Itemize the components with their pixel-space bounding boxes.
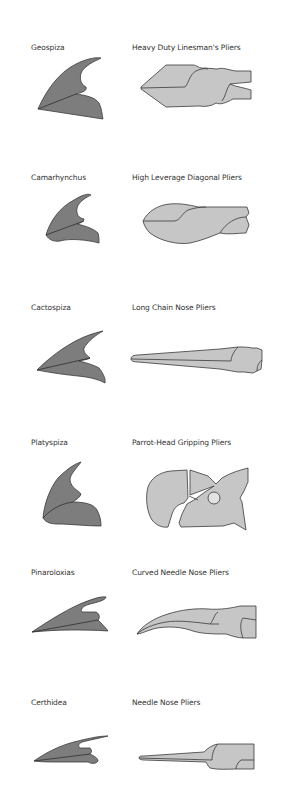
- pair-row-platyspiza: Platyspiza Parrot-Head Gripping Pliers: [0, 438, 300, 563]
- needle-nose-pliers-icon: [0, 698, 300, 807]
- curved-needle-nose-pliers-icon: [0, 568, 300, 693]
- parrot-head-pliers-icon: [0, 438, 300, 563]
- chain-nose-pliers-icon: [0, 303, 300, 428]
- pair-row-geospiza: Geospiza Heavy Duty Linesman's Pliers: [0, 43, 300, 163]
- pair-row-cactospiza: Cactospiza Long Chain Nose Pliers: [0, 303, 300, 428]
- linesman-pliers-icon: [0, 43, 300, 163]
- pair-row-certhidea: Certhidea Needle Nose Pliers: [0, 698, 300, 807]
- diagonal-pliers-icon: [0, 173, 300, 293]
- pair-row-pinaroloxias: Pinaroloxias Curved Needle Nose Pliers: [0, 568, 300, 693]
- pair-row-camarhynchus: Camarhynchus High Leverage Diagonal Plie…: [0, 173, 300, 293]
